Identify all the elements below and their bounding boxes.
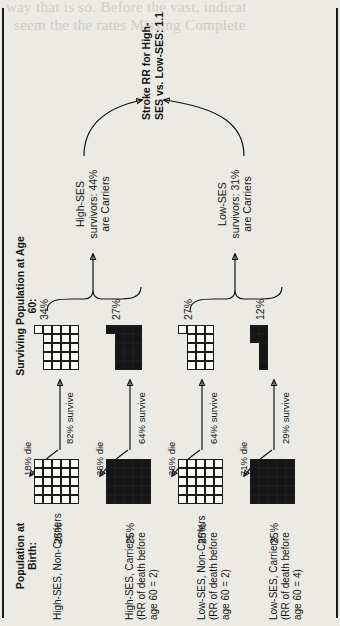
population-square [142, 495, 151, 504]
population-square [133, 486, 142, 495]
population-square [187, 495, 196, 504]
population-square [250, 486, 259, 495]
cohort-birth-grid [34, 459, 79, 504]
population-square [196, 468, 205, 477]
population-square [259, 352, 268, 361]
population-square [268, 468, 277, 477]
cohort-label: Low-SES, Carriers [268, 502, 280, 620]
population-square [259, 325, 268, 334]
population-square [187, 468, 196, 477]
population-square [259, 459, 268, 468]
die-label: 36% die [166, 442, 177, 476]
population-square [205, 361, 214, 370]
population-square [34, 468, 43, 477]
population-square [187, 334, 196, 343]
population-square [124, 361, 133, 370]
population-square [286, 495, 295, 504]
population-square [52, 325, 61, 334]
population-square [178, 343, 187, 352]
population-square [124, 459, 133, 468]
population-square [205, 477, 214, 486]
cohort-survivor-grid [34, 325, 79, 370]
population-square [61, 352, 70, 361]
population-square [106, 486, 115, 495]
population-square [61, 495, 70, 504]
population-square [250, 468, 259, 477]
population-square [43, 477, 52, 486]
population-square [178, 468, 187, 477]
population-square [106, 459, 115, 468]
population-square [268, 459, 277, 468]
population-square [52, 495, 61, 504]
cohort-row-high-ses-non-carriers: High-SES, Non-Carriers 25% 18% die 82% s… [26, 0, 104, 626]
population-square [115, 468, 124, 477]
population-square [124, 486, 133, 495]
population-square [196, 486, 205, 495]
population-square [43, 361, 52, 370]
population-square [106, 495, 115, 504]
population-square [178, 459, 187, 468]
survive-label: 64% survive [136, 392, 147, 444]
population-square [286, 468, 295, 477]
population-square [61, 361, 70, 370]
population-square [187, 459, 196, 468]
survive-label: 82% survive [64, 392, 75, 444]
population-square [187, 352, 196, 361]
population-square [286, 486, 295, 495]
population-square [196, 352, 205, 361]
population-square [106, 477, 115, 486]
population-square [250, 495, 259, 504]
population-square [133, 325, 142, 334]
cohort-birth-grid [178, 459, 223, 504]
cohort-row-low-ses-carriers: Low-SES, Carriers (RR of death before ag… [242, 0, 320, 626]
population-square [61, 468, 70, 477]
cohort-sublabel: (RR of death before age 60 = 2) [208, 502, 232, 620]
population-square [115, 459, 124, 468]
population-square [205, 343, 214, 352]
cohort-birth-grid [250, 459, 295, 504]
cohort-birth-grid [106, 459, 151, 504]
population-square [106, 361, 115, 370]
population-square [124, 477, 133, 486]
population-square [250, 459, 259, 468]
population-square [277, 477, 286, 486]
diagram-stage: Population at Birth: Surviving Populatio… [0, 0, 340, 626]
population-square [187, 361, 196, 370]
population-square [61, 343, 70, 352]
population-square [115, 334, 124, 343]
population-square [133, 334, 142, 343]
conclusion-text: Stroke RR for High- SES vs. Low-SES: 1.1 [140, 12, 165, 120]
cohort-survivor-percent: 27% [182, 299, 194, 320]
population-square [34, 352, 43, 361]
population-square [259, 468, 268, 477]
population-square [34, 361, 43, 370]
population-square [196, 361, 205, 370]
cohort-birth-percent: 25% [52, 523, 64, 544]
population-square [178, 361, 187, 370]
cohort-survivor-grid [178, 325, 214, 370]
population-square [205, 352, 214, 361]
population-square [70, 477, 79, 486]
population-square [214, 486, 223, 495]
population-square [43, 495, 52, 504]
population-square [43, 334, 52, 343]
population-square [124, 468, 133, 477]
population-square [34, 325, 43, 334]
population-square [214, 477, 223, 486]
population-square [34, 459, 43, 468]
population-square [52, 468, 61, 477]
population-square [259, 361, 268, 370]
population-square [52, 334, 61, 343]
population-square [115, 361, 124, 370]
population-square [250, 334, 259, 343]
population-square [106, 352, 115, 361]
population-square [250, 352, 259, 361]
survive-label: 64% survive [208, 392, 219, 444]
population-square [214, 495, 223, 504]
population-square [43, 486, 52, 495]
figure-page: way that is so. Before the vast, indicat… [0, 0, 340, 626]
cohort-birth-percent: 25% [196, 523, 208, 544]
population-square [259, 486, 268, 495]
population-square [133, 468, 142, 477]
cohort-survivor-percent: 27% [110, 299, 122, 320]
